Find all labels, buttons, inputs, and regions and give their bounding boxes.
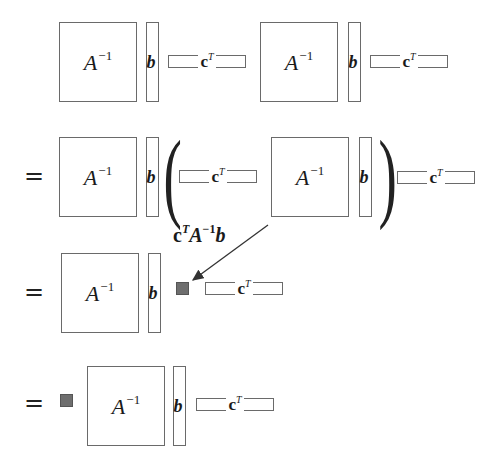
matrix-a-inverse-r2-1: A−1 <box>59 137 137 217</box>
matrix-a-inverse-r1-2: A−1 <box>260 22 338 102</box>
matrix-a-inverse-r1-1: A−1 <box>59 22 137 102</box>
c-transpose-label: cT <box>235 278 252 295</box>
a-inverse-label: A−1 <box>296 163 324 191</box>
c-transpose-label: cT <box>209 166 226 183</box>
matrix-a-inverse-r3: A−1 <box>61 253 139 333</box>
c-transpose-label: cT <box>400 51 417 68</box>
a-inverse-label: A−1 <box>84 48 112 76</box>
b-label: b <box>149 283 158 304</box>
scalar-product-annotation: cTA−1b <box>173 222 225 247</box>
vector-c-transpose-r1-1: cT <box>168 55 246 68</box>
vector-c-transpose-r3: cT <box>205 282 283 295</box>
scalar-square-r4 <box>60 394 73 407</box>
vector-b-r1-1: b <box>146 22 159 102</box>
scalar-square-r3 <box>176 282 189 295</box>
c-transpose-label: cT <box>427 167 444 184</box>
matrix-a-inverse-r4: A−1 <box>87 366 165 446</box>
vector-b-r1-2: b <box>348 22 361 102</box>
equals-sign-r4: = <box>24 393 44 413</box>
left-parenthesis: ( <box>163 136 176 226</box>
c-transpose-label: cT <box>226 394 243 411</box>
vector-b-r2-1: b <box>146 137 159 217</box>
a-inverse-label: A−1 <box>86 279 114 307</box>
equals-sign-r3: = <box>24 282 44 302</box>
matrix-a-inverse-r2-2: A−1 <box>271 137 349 217</box>
c-transpose-label: cT <box>198 51 215 68</box>
b-label: b <box>174 396 183 417</box>
b-label: b <box>349 52 358 73</box>
equals-sign-r2: = <box>24 166 44 186</box>
b-label: b <box>147 52 156 73</box>
a-inverse-label: A−1 <box>285 48 313 76</box>
b-label: b <box>360 167 369 188</box>
vector-c-transpose-r4: cT <box>196 398 274 411</box>
vector-c-transpose-r2-1: cT <box>179 170 257 183</box>
vector-b-r3: b <box>148 253 161 333</box>
vector-c-transpose-r1-2: cT <box>370 55 448 68</box>
right-parenthesis: ) <box>378 136 391 226</box>
a-inverse-label: A−1 <box>84 163 112 191</box>
b-label: b <box>147 167 156 188</box>
vector-c-transpose-r2-2: cT <box>397 171 475 184</box>
vector-b-r2-2: b <box>359 137 372 217</box>
vector-b-r4: b <box>173 366 186 446</box>
a-inverse-label: A−1 <box>112 392 140 420</box>
